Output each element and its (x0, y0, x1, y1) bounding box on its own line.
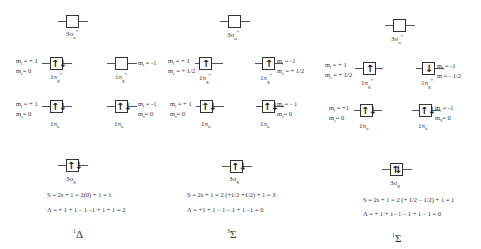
orbital-label: 1πu (50, 120, 60, 129)
orbital-box (115, 57, 128, 70)
orbital-box: ↑↓ (50, 57, 63, 70)
label-sub: u (73, 35, 76, 40)
orbital-1pi-u-right: ↑↓ (107, 100, 137, 113)
orbital-label: 1πg* (361, 78, 373, 89)
quantum-numbers: ml = -1 m = - 1/2 (437, 63, 461, 83)
orbital-box (228, 15, 241, 28)
orbital-box: ⇅ (390, 163, 403, 176)
orbital-3sigma-u-star (58, 15, 88, 28)
quantum-numbers: ml = -1 ms = + 1/2 (277, 58, 304, 78)
ms-value: ms= 0 (277, 111, 297, 121)
orbital-box (66, 15, 79, 28)
orbital-1pi-g-star-left: ↑↓ (42, 57, 72, 70)
orbital-1pi-g-star-right (107, 57, 137, 70)
quantum-numbers: ml = + 1 ms= 0 (16, 58, 38, 78)
orbital-label: 3σu* (391, 34, 403, 45)
term-symbol: 1Δ (73, 228, 83, 240)
orbital-box: ↑↓ (360, 104, 373, 117)
quantum-numbers: ml = + 1 ms= 0 (170, 101, 192, 121)
orbital-1pi-u-left: ↑↓ (42, 100, 72, 113)
orbital-3sigma-g: ↑↓ (58, 159, 88, 172)
orbital-box (393, 19, 406, 32)
orbital-box: ↑↓ (230, 160, 243, 173)
orbital-box: ↑↓ (66, 159, 79, 172)
ms-value: ms= 0 (329, 115, 349, 125)
label-sup: * (76, 29, 79, 34)
orbital-box: ↑↓ (115, 100, 128, 113)
orbital-label: 3σu* (66, 29, 78, 40)
orbital-3sigma-u-star (220, 15, 250, 28)
ms-value: ms = + 1/2 (168, 68, 195, 78)
orbital-3sigma-g: ↑↓ (222, 160, 252, 173)
orbital-label: 3σg (390, 179, 400, 188)
orbital-box: ↓ (422, 62, 435, 75)
orbital-label: 3σg (66, 175, 76, 184)
orbital-1pi-g-star-left: ↑ (195, 57, 223, 70)
ms-value: ms = + 1/2 (277, 68, 304, 78)
orbital-box: ↑ (262, 57, 275, 70)
spin-multiplicity-formula: S = 2s + 1 = 2 (+ 1/2 – 1/2) + 1 = 1 (363, 196, 454, 203)
term-symbol: 3Σ (227, 228, 236, 240)
ms-value: ms = + 1/2 (325, 72, 352, 82)
orbital-box: ↑ (363, 62, 376, 75)
quantum-numbers: ml = +1 ms= 0 (329, 105, 349, 125)
orbital-label: 1πg* (115, 72, 127, 83)
orbital-label: 1πu (418, 122, 428, 131)
ml-value: ml = -1 (138, 60, 157, 70)
spin-multiplicity-formula: S = 2s + 1 = 2(0) + 1 = 1 (47, 191, 112, 198)
orbital-box: ↑↓ (200, 100, 213, 113)
term-symbol: 1Σ (392, 232, 401, 244)
ms-value: ms= 0 (170, 111, 192, 121)
orbital-box: ↑↓ (419, 104, 432, 117)
quantum-numbers: ml = -1 ms= 0 (138, 101, 157, 121)
quantum-numbers: ml = + 1 ms = + 1/2 (325, 62, 352, 82)
orbital-1pi-u-left: ↑↓ (196, 100, 224, 113)
quantum-numbers: ml = -1 mS= 0 (435, 105, 454, 125)
orbital-3sigma-g: ⇅ (382, 163, 412, 176)
orbital-label: 1πg* (199, 73, 211, 84)
orbital-label: 1πu (260, 120, 270, 129)
lambda-formula: Λ = + 1 + 1– 1 – 1 + 1 – 1 = 0 (363, 210, 441, 217)
lambda-formula: Λ = +1 + 1 – 1 – 1 + 1 –1 = 0 (187, 206, 264, 213)
orbital-label: 3σu* (227, 30, 239, 41)
orbital-label: 1πg* (50, 72, 62, 83)
orbital-box: ↑↓ (50, 100, 63, 113)
orbital-label: 1πu (114, 120, 124, 129)
spin-multiplicity-formula: S = 2s + 1 = 2 (+1/2 +1/2) + 1 = 3 (187, 191, 276, 198)
quantum-numbers: ml = + 1 ms = + 1/2 (168, 58, 195, 78)
ms-value: ms= 0 (138, 111, 157, 121)
quantum-numbers: ml = -1 (138, 60, 157, 70)
orbital-label: 1πg* (421, 78, 433, 89)
ms-value: ms= 0 (16, 111, 38, 121)
orbital-1pi-u-left: ↑↓ (354, 104, 382, 117)
orbital-label: 3σg (229, 175, 239, 184)
orbital-box: ↑↓ (262, 100, 275, 113)
orbital-3sigma-u-star (385, 19, 415, 32)
ms-value: ms= 0 (16, 68, 38, 78)
orbital-label: 1πu (201, 120, 211, 129)
ms-value: m = - 1/2 (437, 73, 461, 83)
quantum-numbers: ml = - 1 ms= 0 (277, 101, 297, 121)
orbital-label: 1πg* (260, 73, 272, 84)
orbital-1pi-g-star-left: ↑ (355, 62, 383, 75)
orbital-label: 1πu (359, 122, 369, 131)
lambda-formula: Λ = + 1 + 1 – 1 –1 + 1 + 1 = 2 (47, 206, 126, 213)
quantum-numbers: ml = + 1 ms= 0 (16, 101, 38, 121)
orbital-box: ↑ (199, 57, 212, 70)
ms-value: mS= 0 (435, 115, 454, 125)
